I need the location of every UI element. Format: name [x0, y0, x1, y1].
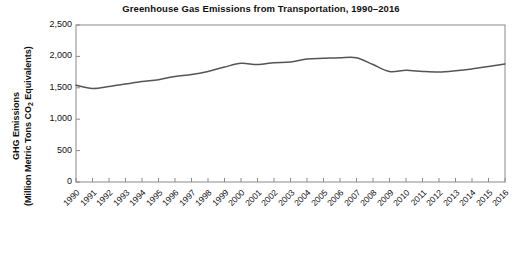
chart-figure: Greenhouse Gas Emissions from Transporta… [0, 0, 522, 254]
x-axis-tick-labels: 1990199119921993199419951996199719981999… [0, 0, 522, 254]
